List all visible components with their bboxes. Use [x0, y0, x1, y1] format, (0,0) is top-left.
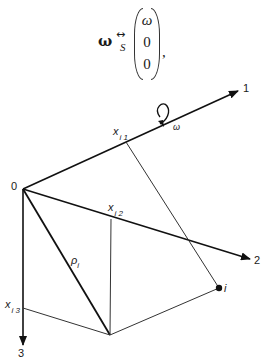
projection-xi1-to-point: [126, 142, 219, 288]
xi3-subscript: i 3: [12, 306, 20, 315]
omega-rotation-label: ω: [173, 122, 180, 132]
axis-3-label: 3: [18, 347, 24, 359]
point-i-dot: [216, 285, 222, 291]
rho-subscript: i: [77, 261, 79, 270]
projection-xi2-to-vertex: [110, 219, 111, 335]
rho-vector-line: [23, 189, 110, 335]
projection-vertex-to-point: [110, 288, 219, 335]
axis-1-label: 1: [243, 82, 249, 94]
xi2-subscript: i 2: [115, 209, 123, 218]
rho-label: ρi: [71, 254, 79, 266]
xi2-label: xi 2: [108, 201, 122, 213]
origin-label: 0: [11, 180, 17, 192]
xi2-main: x: [108, 201, 114, 213]
xi3-label: xi 3: [5, 298, 19, 310]
xi1-label: xi 1: [113, 125, 127, 137]
axis-2-line: [23, 189, 250, 259]
axis-2-label: 2: [254, 254, 260, 266]
rigid-body-axes-diagram: [0, 0, 263, 362]
xi3-main: x: [5, 298, 11, 310]
xi1-subscript: i 1: [120, 133, 128, 142]
point-i-label: i: [224, 282, 226, 294]
xi1-main: x: [113, 125, 119, 137]
axis-1-line: [23, 91, 238, 189]
